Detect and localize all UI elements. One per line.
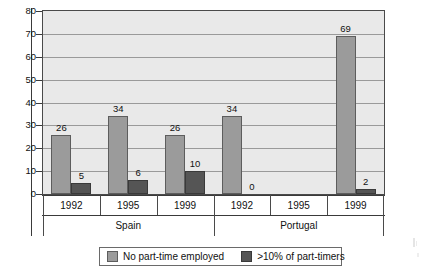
bar-value-label: 2 [350,177,382,187]
y-axis-tick-label: 40 [10,98,36,107]
category-separator [214,195,215,215]
category-separator [100,195,101,215]
group-axis: SpainPortugal [42,215,385,236]
gridline [43,103,384,104]
category-separator [327,195,328,215]
y-axis-tick-label: 20 [10,143,36,152]
scan-artifact [413,238,415,247]
gridline [43,148,384,149]
category-separator [157,195,158,215]
category-label-4: 1995 [270,195,327,215]
category-label-1: 1995 [100,195,157,215]
y-axis-tick-label: 60 [10,52,36,61]
bar-value-label: 0 [236,182,268,192]
bar-value-label: 26 [159,123,191,133]
legend-label-1: >10% of part-timers [257,251,345,262]
category-separator [43,195,44,215]
plot-area: 2653462610340692 [42,10,385,195]
bar [71,183,91,194]
y-axis-tick-label: 50 [10,75,36,84]
category-label-2: 1999 [157,195,214,215]
category-label-5: 1999 [327,195,384,215]
gridline [43,125,384,126]
group-separator [43,215,44,236]
bar [108,116,128,194]
bar-value-label: 34 [102,104,134,114]
y-axis-tick-label: 70 [10,29,36,38]
bar-value-label: 6 [122,168,154,178]
group-label-1: Portugal [214,215,385,236]
bar [51,135,71,194]
gridline [43,57,384,58]
bar-value-label: 10 [179,159,211,169]
category-label-0: 1992 [43,195,100,215]
bar-value-label: 5 [65,171,97,181]
scan-artifact [417,253,419,257]
dark-gray-swatch-icon [241,251,252,262]
y-axis-tick-label: 0 [10,189,36,198]
light-gray-swatch-icon [107,251,118,262]
bar-value-label: 69 [330,24,362,34]
chart-legend: No part-time employed >10% of part-timer… [99,247,342,266]
bar-value-label: 34 [216,104,248,114]
legend-label-0: No part-time employed [123,251,224,262]
bar [185,171,205,194]
category-label-3: 1992 [214,195,271,215]
bar-value-label: 26 [45,123,77,133]
group-separator [214,215,215,236]
y-axis-tick-label: 10 [10,166,36,175]
bar [128,180,148,194]
scan-artifact [416,241,417,246]
legend-item-over-10-percent: >10% of part-timers [241,251,345,262]
y-axis-tick-label: 30 [10,120,36,129]
plot-inner: 2653462610340692 [43,11,384,194]
category-separator [270,195,271,215]
category-separator [383,195,384,215]
bar [356,189,376,194]
category-axis: 199219951999199219951999 [42,195,385,215]
legend-item-no-part-time: No part-time employed [107,251,224,262]
y-axis-tick-label: 80 [10,6,36,15]
bar [336,36,356,194]
gridline [43,80,384,81]
group-label-0: Spain [43,215,214,236]
bar-chart-figure: 80706050403020100 2653462610340692 19921… [0,0,425,275]
group-separator [383,215,384,236]
